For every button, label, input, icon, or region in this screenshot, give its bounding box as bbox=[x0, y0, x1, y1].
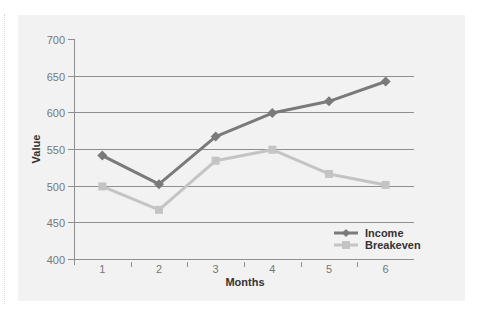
square-marker-icon bbox=[382, 181, 390, 189]
line-chart: 400450500550600650700 123456 Months Valu… bbox=[0, 0, 477, 316]
diamond-marker-icon bbox=[324, 96, 334, 106]
series-lines bbox=[97, 77, 390, 214]
diamond-marker-icon bbox=[381, 77, 391, 87]
diamond-marker-icon bbox=[97, 151, 107, 161]
y-tick-label: 400 bbox=[47, 254, 65, 266]
x-tick-label: 6 bbox=[383, 263, 389, 275]
square-marker-icon bbox=[268, 146, 276, 154]
legend-label-breakeven: Breakeven bbox=[365, 239, 421, 251]
diamond-marker-icon bbox=[267, 108, 277, 118]
x-tick-label: 5 bbox=[326, 263, 332, 275]
square-marker-icon bbox=[342, 241, 350, 249]
legend-label-income: Income bbox=[365, 227, 404, 239]
x-tick-label: 2 bbox=[156, 263, 162, 275]
x-axis-ticks: 123456 bbox=[99, 262, 388, 275]
legend: IncomeBreakeven bbox=[334, 227, 421, 251]
y-tick-label: 550 bbox=[47, 144, 65, 156]
series-line-income bbox=[102, 82, 385, 185]
x-axis-title: Months bbox=[225, 276, 264, 288]
square-marker-icon bbox=[325, 170, 333, 178]
y-tick-label: 500 bbox=[47, 181, 65, 193]
x-tick-label: 3 bbox=[213, 263, 219, 275]
y-axis-title: Value bbox=[30, 135, 42, 164]
y-tick-label: 600 bbox=[47, 107, 65, 119]
diamond-marker-icon bbox=[342, 229, 350, 237]
square-marker-icon bbox=[212, 157, 220, 165]
y-tick-label: 450 bbox=[47, 217, 65, 229]
x-tick-label: 4 bbox=[269, 263, 275, 275]
x-tick-label: 1 bbox=[99, 263, 105, 275]
y-axis-ticks: 400450500550600650700 bbox=[47, 34, 74, 266]
series-line-breakeven bbox=[102, 150, 385, 210]
gridlines bbox=[74, 77, 414, 223]
square-marker-icon bbox=[155, 206, 163, 214]
y-tick-label: 650 bbox=[47, 71, 65, 83]
axes bbox=[74, 39, 414, 265]
y-tick-label: 700 bbox=[47, 34, 65, 46]
square-marker-icon bbox=[98, 182, 106, 190]
